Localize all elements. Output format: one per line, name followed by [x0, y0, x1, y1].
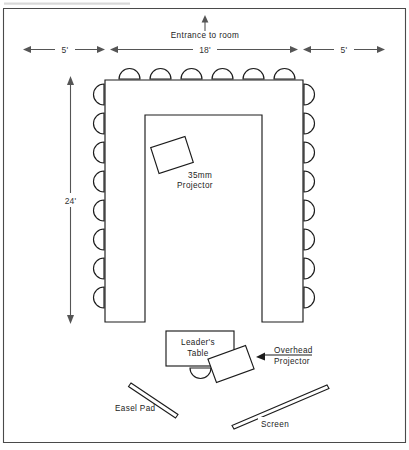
entrance-arrow-head	[202, 15, 209, 23]
dim-room-depth-label: 24'	[65, 196, 77, 206]
chair-right-8	[304, 287, 315, 308]
horizontal-dimensions: 5' 18' 5'	[23, 43, 385, 56]
dim-left-aisle-head-right	[97, 46, 105, 53]
screen: Screen	[232, 385, 329, 430]
overhead-projector-label-line2: Projector	[274, 357, 310, 366]
chair-left-8	[94, 287, 105, 308]
chair-left-3	[94, 142, 105, 163]
chair-top-2	[150, 69, 171, 80]
chairs-left-column	[94, 84, 105, 308]
masthead-cropped-text	[4, 3, 130, 5]
chair-leader	[190, 368, 211, 379]
dim-room-depth-head-bottom	[67, 315, 74, 324]
chair-right-2	[304, 113, 315, 134]
entrance-label: Entrance to room	[171, 31, 239, 40]
dim-left-aisle-label: 5'	[62, 45, 69, 55]
dim-left-aisle-head-left	[23, 46, 31, 53]
dim-right-aisle-head-right	[377, 46, 385, 53]
projector-35mm-body	[151, 137, 194, 174]
u-shaped-table	[105, 80, 303, 322]
chair-right-1	[304, 84, 315, 105]
projector-35mm-label-line1: 35mm	[188, 171, 212, 180]
screen-label: Screen	[261, 420, 289, 429]
chair-right-3	[304, 142, 315, 163]
chairs-top-row	[119, 69, 295, 80]
chair-top-6	[274, 69, 295, 80]
vertical-dimension: 24'	[58, 76, 83, 324]
dim-table-span-head-left	[110, 46, 118, 53]
easel-pad: Easel Pad	[115, 383, 178, 418]
easel-pad-label: Easel Pad	[115, 404, 156, 413]
chair-right-5	[304, 200, 315, 221]
chair-top-4	[212, 69, 233, 80]
chair-top-3	[181, 69, 202, 80]
dim-right-aisle-label: 5'	[341, 45, 348, 55]
dim-table-span-label: 18'	[199, 45, 211, 55]
chair-top-5	[243, 69, 264, 80]
chair-right-6	[304, 229, 315, 250]
floor-plan-svg: Entrance to room 5' 18' 5'	[0, 0, 409, 450]
chair-left-6	[94, 229, 105, 250]
dim-room-depth-head-top	[67, 76, 74, 85]
overhead-projector-leader-arrow	[256, 353, 265, 361]
chair-left-1	[94, 84, 105, 105]
chair-left-4	[94, 171, 105, 192]
dim-right-aisle-head-left	[303, 46, 311, 53]
overhead-projector-label-line1: Overhead	[274, 346, 313, 355]
chair-right-7	[304, 258, 315, 279]
chair-left-2	[94, 113, 105, 134]
entrance-marker: Entrance to room	[171, 15, 239, 40]
chair-left-7	[94, 258, 105, 279]
chairs-right-column	[304, 84, 315, 308]
projector-35mm: 35mm Projector	[151, 137, 213, 190]
chair-left-5	[94, 200, 105, 221]
chair-top-1	[119, 69, 140, 80]
chair-right-4	[304, 171, 315, 192]
leaders-table-label-line1: Leader's	[181, 338, 215, 347]
leaders-table-label-line2: Table	[187, 349, 208, 358]
room-layout-diagram: Entrance to room 5' 18' 5'	[0, 0, 409, 450]
projector-35mm-label-line2: Projector	[177, 181, 213, 190]
dim-table-span-head-right	[290, 46, 298, 53]
